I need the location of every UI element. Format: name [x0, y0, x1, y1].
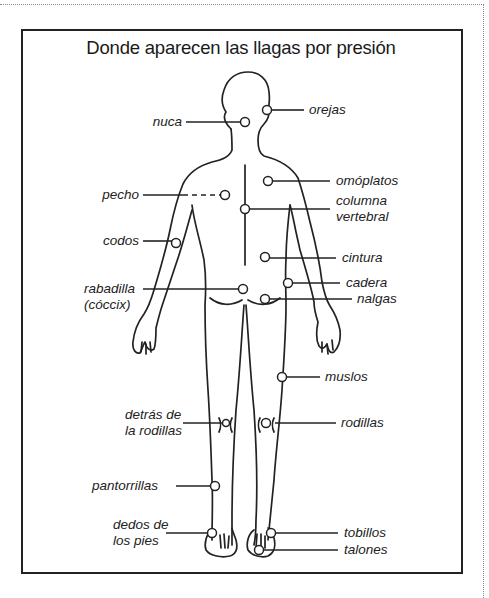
marker-detras-rodillas [223, 420, 230, 427]
label-tobillos: tobillos [344, 525, 386, 541]
label-codos: codos [80, 233, 139, 249]
marker-omoplatos [264, 177, 273, 186]
marker-rabadilla [239, 285, 248, 294]
marker-pantorrillas [211, 482, 220, 491]
marker-columna [241, 205, 250, 214]
marker-pecho [221, 191, 230, 200]
marker-cadera [284, 279, 293, 288]
marker-tobillos [267, 529, 276, 538]
label-cintura: cintura [342, 250, 383, 266]
label-pantorrillas: pantorrillas [92, 478, 158, 494]
marker-codos [172, 239, 181, 248]
label-rabadilla-1: rabadilla [84, 281, 135, 297]
label-nuca: nuca [130, 114, 182, 130]
label-cadera: cadera [346, 275, 387, 291]
marker-orejas [263, 106, 272, 115]
body-figure [0, 0, 489, 598]
label-detras-rodillas-2: la rodillas [125, 423, 182, 439]
label-columna-2: vertebral [336, 209, 389, 225]
label-nalgas: nalgas [357, 291, 397, 307]
label-omoplatos: omóplatos [336, 173, 398, 189]
marker-nalgas [261, 295, 270, 304]
label-pecho: pecho [80, 187, 139, 203]
marker-rodillas [262, 419, 271, 428]
marker-muslos [278, 373, 287, 382]
label-rabadilla-2: (cóccix) [84, 297, 131, 313]
marker-cintura [261, 253, 270, 262]
label-dedos-2: los pies [113, 533, 159, 549]
label-dedos-1: dedos de [113, 517, 169, 533]
label-columna-1: columna [336, 193, 387, 209]
label-rodillas: rodillas [341, 415, 384, 431]
marker-talones [255, 546, 264, 555]
label-detras-rodillas-1: detrás de [125, 407, 181, 423]
marker-nuca [241, 118, 250, 127]
label-orejas: orejas [309, 102, 346, 118]
marker-dedos [208, 529, 217, 538]
label-talones: talones [344, 542, 388, 558]
label-muslos: muslos [325, 369, 368, 385]
